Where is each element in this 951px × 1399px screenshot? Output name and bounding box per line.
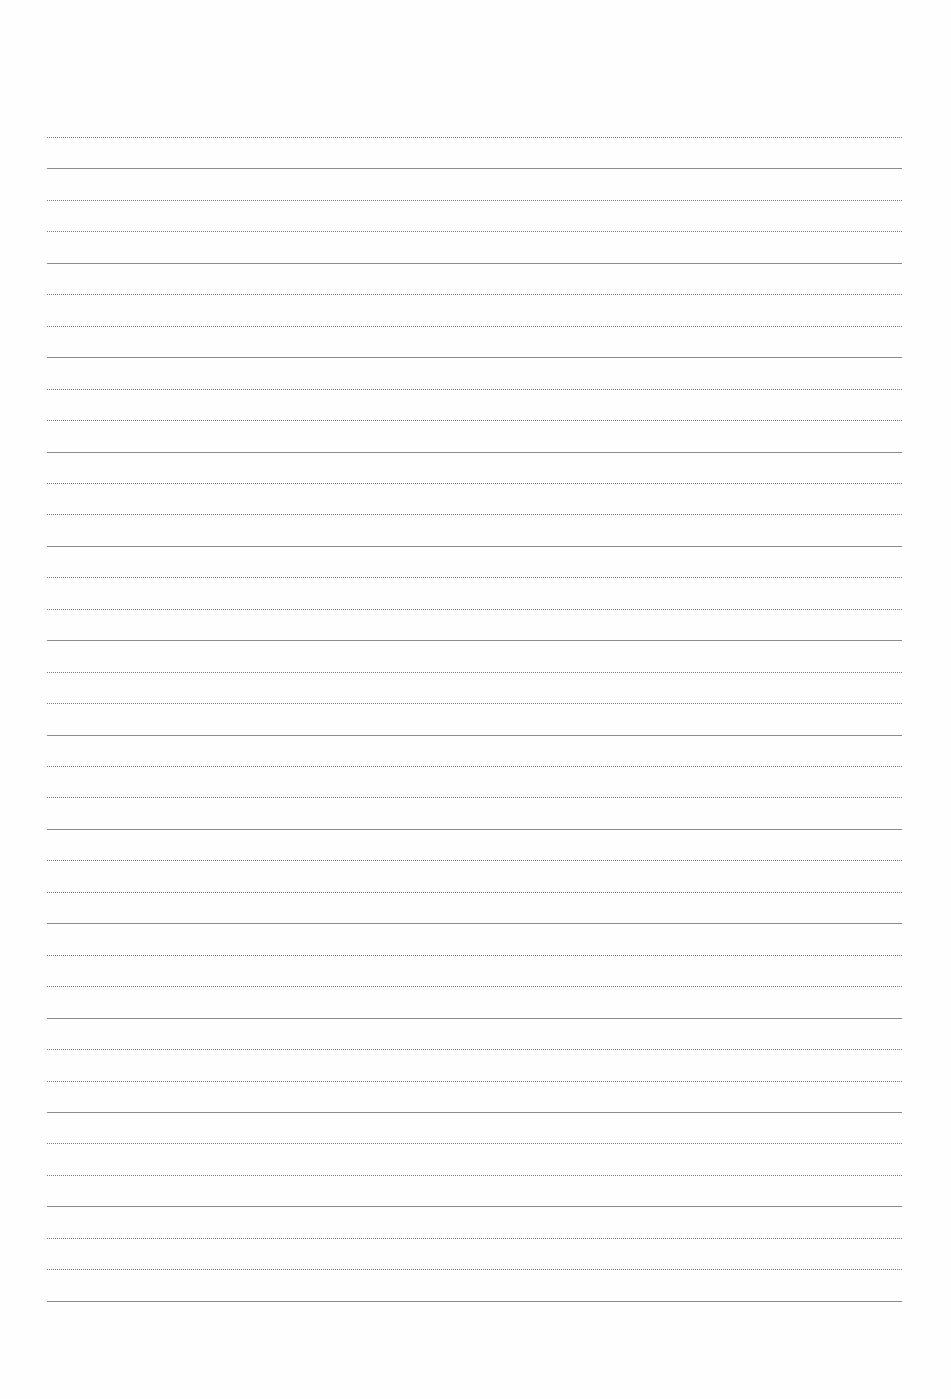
ruled-line <box>47 797 902 798</box>
ruled-line <box>47 263 902 264</box>
ruled-line <box>47 452 902 453</box>
ruled-line <box>47 483 902 484</box>
ruled-line <box>47 640 902 641</box>
ruled-line <box>47 326 902 327</box>
ruled-line <box>47 923 902 924</box>
ruled-line <box>47 672 902 673</box>
ruled-line <box>47 609 902 610</box>
ruled-line <box>47 1018 902 1019</box>
ruled-line <box>47 514 902 515</box>
ruled-line <box>47 137 902 138</box>
ruled-line <box>47 1049 902 1050</box>
ruled-line <box>47 1206 902 1207</box>
ruled-line <box>47 294 902 295</box>
ruled-line <box>47 200 902 201</box>
ruled-line <box>47 766 902 767</box>
ruled-line <box>47 1238 902 1239</box>
ruled-line <box>47 955 902 956</box>
ruled-line <box>47 1175 902 1176</box>
ruled-line <box>47 357 902 358</box>
ruled-line <box>47 986 902 987</box>
ruled-line <box>47 1112 902 1113</box>
ruled-line <box>47 420 902 421</box>
lined-paper-sheet <box>0 0 951 1399</box>
ruled-line <box>47 168 902 169</box>
ruled-line <box>47 1081 902 1082</box>
ruled-line <box>47 860 902 861</box>
ruled-line <box>47 1143 902 1144</box>
ruled-line <box>47 1269 902 1270</box>
ruled-line <box>47 892 902 893</box>
ruled-line <box>47 389 902 390</box>
ruled-line <box>47 829 902 830</box>
ruled-line <box>47 735 902 736</box>
ruled-line <box>47 231 902 232</box>
ruled-line <box>47 577 902 578</box>
ruled-line <box>47 703 902 704</box>
ruled-line <box>47 546 902 547</box>
ruled-line <box>47 1301 902 1302</box>
